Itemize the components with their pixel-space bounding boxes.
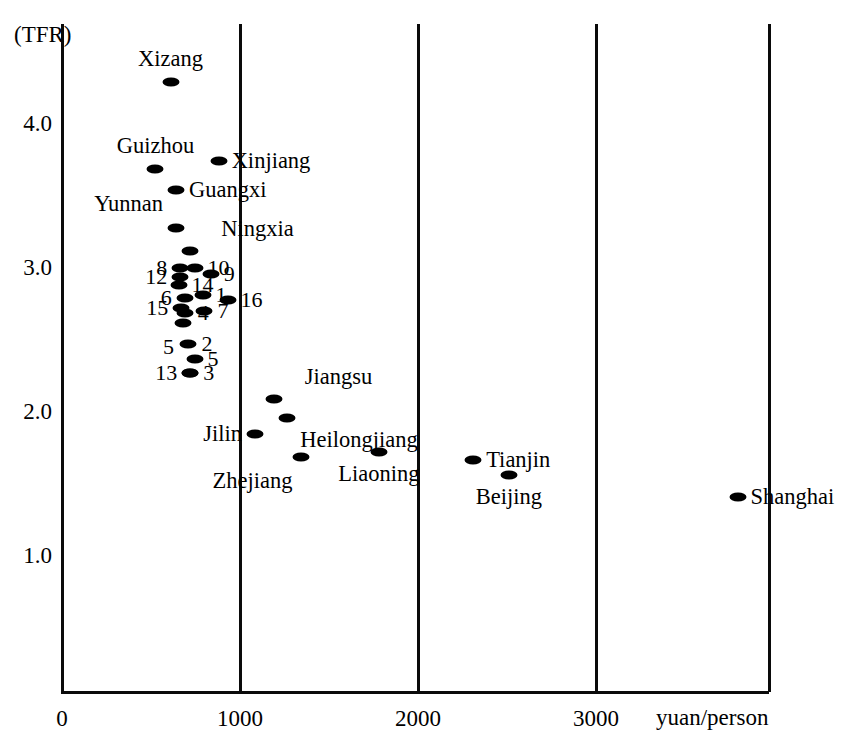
data-point (186, 264, 203, 273)
y-tick-label: 1.0 (0, 543, 52, 569)
data-point (176, 294, 193, 303)
data-point (194, 291, 211, 300)
data-point-label: Liaoning (338, 463, 419, 486)
gridline-x-1000 (239, 24, 242, 692)
data-point-label: 16 (241, 289, 263, 311)
data-point (173, 304, 190, 313)
data-point-label: Xizang (138, 48, 203, 71)
data-point (500, 471, 517, 480)
data-point-label: Shanghai (751, 486, 835, 509)
y-tick-label: 2.0 (0, 399, 52, 425)
y-tick-label: 4.0 (0, 111, 52, 137)
data-point-label: Beijing (476, 486, 542, 509)
data-point-label: 3 (203, 362, 214, 384)
data-point-label: Guangxi (189, 179, 267, 202)
data-point-label: Ningxia (221, 217, 294, 240)
data-point (170, 281, 187, 290)
gridline-x-2000 (417, 24, 420, 692)
x-tick-label: 0 (12, 706, 112, 732)
data-point (186, 354, 203, 363)
data-point (182, 369, 199, 378)
y-tick-label: 3.0 (0, 255, 52, 281)
data-point (196, 307, 213, 316)
x-tick-label: 2000 (368, 706, 468, 732)
data-point-label: Zhejiang (212, 469, 292, 492)
data-point (162, 78, 179, 87)
data-point-label: 15 (146, 297, 168, 319)
data-point (729, 492, 746, 501)
data-point (247, 429, 264, 438)
data-point-label: Jiangsu (305, 366, 373, 389)
data-point (175, 318, 192, 327)
data-point (167, 223, 184, 232)
plot-right-border (768, 24, 771, 692)
x-axis-caption: yuan/person (656, 705, 768, 731)
data-point (180, 340, 197, 349)
data-point-label: 13 (155, 362, 177, 384)
data-point-label: Jilin (203, 422, 242, 445)
data-point (210, 157, 227, 166)
data-point (147, 164, 164, 173)
data-point (182, 246, 199, 255)
data-point (265, 395, 282, 404)
gridline-x-3000 (595, 24, 598, 692)
data-point-label: Heilongjiang (300, 429, 417, 452)
x-axis-line (61, 691, 769, 694)
data-point (167, 186, 184, 195)
y-axis-line (61, 24, 64, 694)
data-point-label: 5 (163, 336, 174, 358)
data-point (465, 455, 482, 464)
data-point (172, 272, 189, 281)
x-tick-label: 3000 (546, 706, 646, 732)
data-point-label: Xinjiang (232, 150, 311, 173)
data-point-label: Yunnan (94, 192, 163, 215)
data-point (279, 413, 296, 422)
data-point-label: Tianjin (486, 448, 550, 471)
data-point-label: Guizhou (117, 134, 195, 157)
scatter-plot-figure: (TFR) yuan/person 0100020003000 4.03.02.… (0, 0, 855, 742)
x-tick-label: 1000 (190, 706, 290, 732)
data-point (370, 448, 387, 457)
data-point-label: 7 (217, 300, 228, 322)
data-point (293, 452, 310, 461)
